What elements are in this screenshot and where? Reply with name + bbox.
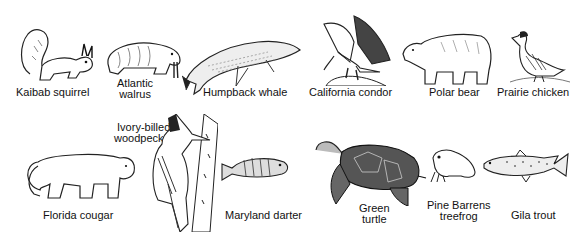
pine-barrens-treefrog-illustration: [429, 148, 477, 184]
prairie-chicken-illustration: [506, 28, 572, 84]
pine-barrens-treefrog-label: Pine Barrens treefrog: [427, 200, 491, 222]
atlantic-walrus-label: Atlantic walrus: [117, 78, 153, 100]
florida-cougar-label: Florida cougar: [43, 210, 113, 221]
polar-bear-illustration: [401, 30, 493, 86]
ivory-billed-woodpecker-illustration: [148, 114, 218, 232]
green-turtle-illustration: [314, 140, 428, 206]
green-turtle-label: Green turtle: [359, 203, 390, 225]
atlantic-walrus-illustration: [104, 36, 186, 78]
kaibab-squirrel-illustration: [14, 26, 98, 84]
maryland-darter-label: Maryland darter: [225, 210, 302, 221]
florida-cougar-illustration: [20, 146, 138, 202]
kaibab-squirrel-label: Kaibab squirrel: [16, 87, 89, 98]
gila-trout-label: Gila trout: [511, 210, 556, 221]
gila-trout-illustration: [482, 150, 572, 184]
polar-bear-label: Polar bear: [429, 87, 480, 98]
california-condor-illustration: [320, 12, 396, 86]
humpback-whale-label: Humpback whale: [203, 87, 287, 98]
maryland-darter-illustration: [218, 150, 290, 188]
prairie-chicken-label: Prairie chicken: [497, 87, 569, 98]
california-condor-label: California condor: [309, 87, 392, 98]
